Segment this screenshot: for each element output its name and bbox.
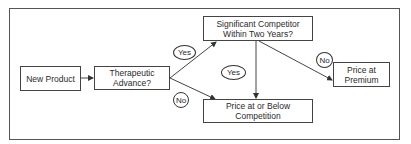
edge-label-competitor-yes: Yes bbox=[221, 65, 246, 80]
edge-label-therapeutic-yes: Yes bbox=[173, 45, 196, 60]
edge-label-competitor-no: No bbox=[316, 52, 333, 68]
node-price-at-or-below: Price at or Below Competition bbox=[203, 99, 313, 123]
edge-label-therapeutic-no: No bbox=[173, 92, 189, 108]
node-therapeutic-advance-label: Therapeutic Advance? bbox=[98, 68, 166, 88]
node-new-product-label: New Product bbox=[26, 74, 75, 84]
node-price-at-premium: Price at Premium bbox=[333, 62, 390, 87]
edge-label-text: No bbox=[319, 56, 329, 65]
node-significant-competitor-label: Significant Competitor Within Two Years? bbox=[207, 19, 309, 39]
edge-label-text: Yes bbox=[178, 48, 191, 57]
node-significant-competitor: Significant Competitor Within Two Years? bbox=[203, 16, 313, 41]
node-price-at-premium-label: Price at Premium bbox=[342, 65, 381, 85]
edge-label-text: Yes bbox=[227, 68, 240, 77]
node-new-product: New Product bbox=[20, 66, 81, 91]
node-therapeutic-advance: Therapeutic Advance? bbox=[94, 66, 170, 90]
edge-label-text: No bbox=[176, 96, 186, 105]
node-price-at-or-below-label: Price at or Below Competition bbox=[207, 101, 309, 121]
